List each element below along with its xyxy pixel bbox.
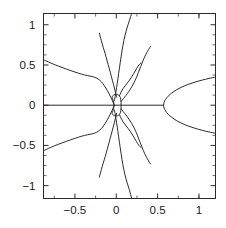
curve-mid-lower-terminating (99, 113, 116, 177)
curve-parabola-upper (164, 77, 216, 105)
curve-group (44, 14, 216, 199)
curve-left-branch-lower (44, 105, 115, 151)
x-axis-tick-labels: −0.500.51 (64, 204, 203, 216)
x-tick-label: 0 (113, 204, 119, 216)
major-ticks-group (44, 14, 216, 199)
curve-steep-left-upper (114, 14, 131, 101)
curve-inner-right-upper (120, 63, 142, 96)
curve-parabola-lower (164, 105, 216, 133)
y-axis-tick-labels: −1−0.500.51 (13, 19, 36, 192)
y-tick-label: −1 (22, 180, 35, 192)
curve-left-branch-upper (44, 60, 115, 106)
x-tick-label: 0.5 (150, 204, 166, 216)
y-tick-label: 0 (29, 99, 35, 111)
curve-inner-right-lower (120, 115, 142, 148)
x-tick-label: 1 (196, 204, 202, 216)
y-tick-label: −0.5 (13, 139, 36, 151)
algebraic-curve-plot: −0.500.51 −1−0.500.51 (0, 0, 226, 228)
curve-right-upper-terminating (121, 46, 150, 101)
x-tick-label: −0.5 (64, 204, 87, 216)
y-tick-label: 0.5 (20, 59, 36, 71)
y-tick-label: 1 (29, 19, 35, 31)
curve-steep-left-lower (114, 110, 131, 198)
curve-mid-upper-terminating (99, 33, 116, 97)
plot-frame (44, 14, 216, 199)
plot-figure: −0.500.51 −1−0.500.51 (0, 0, 226, 228)
minor-ticks-group (44, 14, 216, 199)
curve-right-lower-terminating (121, 109, 150, 164)
